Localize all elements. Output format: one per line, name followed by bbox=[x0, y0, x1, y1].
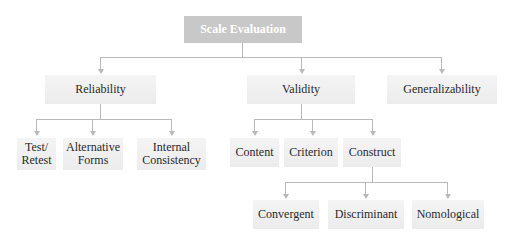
node-discriminant: Discriminant bbox=[328, 200, 404, 229]
connector bbox=[100, 57, 101, 69]
arrow-down-icon bbox=[169, 131, 175, 136]
arrow-down-icon bbox=[363, 194, 369, 199]
connector bbox=[100, 57, 442, 58]
connector bbox=[312, 119, 313, 131]
node-validity: Validity bbox=[247, 75, 355, 104]
node-label: Nomological bbox=[417, 208, 480, 221]
node-label: Generalizability bbox=[403, 83, 480, 96]
connector bbox=[254, 119, 372, 120]
connector bbox=[301, 104, 302, 119]
node-label: Scale Evaluation bbox=[200, 23, 286, 36]
node-test-retest: Test/ Retest bbox=[17, 138, 56, 170]
node-criterion: Criterion bbox=[284, 138, 338, 167]
connector bbox=[171, 119, 172, 131]
arrow-down-icon bbox=[90, 131, 96, 136]
node-alternative-forms: Alternative Forms bbox=[63, 138, 123, 170]
arrow-down-icon bbox=[439, 69, 445, 74]
connector bbox=[36, 119, 172, 120]
connector bbox=[372, 167, 373, 182]
node-reliability: Reliability bbox=[45, 75, 156, 104]
node-internal-consistency: Internal Consistency bbox=[137, 138, 206, 170]
node-label: Test/ Retest bbox=[22, 141, 52, 167]
connector bbox=[254, 119, 255, 131]
node-content: Content bbox=[230, 138, 279, 167]
node-label: Criterion bbox=[289, 146, 332, 159]
node-label: Content bbox=[236, 146, 274, 159]
node-label: Reliability bbox=[75, 83, 126, 96]
connector bbox=[441, 57, 442, 69]
node-generalizability: Generalizability bbox=[387, 75, 497, 104]
connector bbox=[285, 182, 286, 194]
connector bbox=[372, 119, 373, 131]
connector bbox=[100, 104, 101, 119]
node-label: Convergent bbox=[258, 208, 314, 221]
connector bbox=[92, 119, 93, 131]
connector bbox=[365, 182, 366, 194]
node-label: Validity bbox=[282, 83, 320, 96]
arrow-down-icon bbox=[445, 194, 451, 199]
arrow-down-icon bbox=[310, 131, 316, 136]
node-construct: Construct bbox=[343, 138, 401, 167]
connector bbox=[36, 119, 37, 131]
node-label: Internal Consistency bbox=[142, 141, 201, 167]
connector bbox=[447, 182, 448, 194]
arrow-down-icon bbox=[98, 69, 104, 74]
arrow-down-icon bbox=[252, 131, 258, 136]
arrow-down-icon bbox=[299, 69, 305, 74]
arrow-down-icon bbox=[283, 194, 289, 199]
node-nomological: Nomological bbox=[412, 200, 484, 229]
node-label: Alternative Forms bbox=[66, 141, 120, 167]
arrow-down-icon bbox=[34, 131, 40, 136]
node-convergent: Convergent bbox=[253, 200, 319, 229]
connector bbox=[301, 57, 302, 69]
connector bbox=[285, 182, 448, 183]
node-label: Construct bbox=[349, 146, 396, 159]
node-label: Discriminant bbox=[335, 208, 398, 221]
connector bbox=[242, 43, 243, 57]
arrow-down-icon bbox=[370, 131, 376, 136]
node-scale-evaluation: Scale Evaluation bbox=[184, 16, 302, 43]
